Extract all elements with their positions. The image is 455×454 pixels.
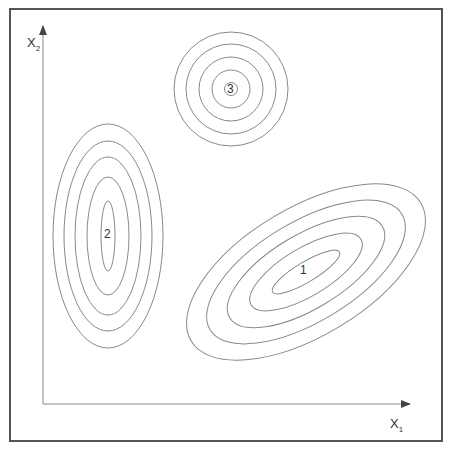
y-axis-label-text: X <box>27 35 36 50</box>
x-axis-subscript: 1 <box>399 425 403 434</box>
cluster-2-label: 2 <box>104 227 111 241</box>
cluster-1-label: 1 <box>300 263 307 277</box>
x-axis-label-text: X <box>390 416 399 431</box>
contour-diagram <box>0 0 455 454</box>
y-axis-subscript: 2 <box>36 44 40 53</box>
y-axis-label: X2 <box>27 35 40 53</box>
cluster-3-label: 3 <box>227 82 234 96</box>
x-axis-label: X1 <box>390 416 403 434</box>
